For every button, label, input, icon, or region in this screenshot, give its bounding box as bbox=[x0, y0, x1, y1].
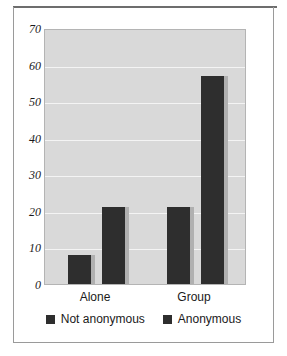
chart-legend: Not anonymous Anonymous bbox=[0, 312, 287, 326]
legend-label-anonymous: Anonymous bbox=[178, 312, 241, 326]
y-tick-label-10: 10 bbox=[1, 241, 41, 256]
y-tick-label-30: 30 bbox=[1, 168, 41, 183]
y-tick-label-20: 20 bbox=[1, 204, 41, 219]
bar-group-not-anonymous bbox=[167, 207, 190, 284]
figure-container: 70 60 50 40 30 20 10 0 Alone Group Not a… bbox=[0, 0, 287, 356]
bar-alone-anonymous bbox=[102, 207, 125, 284]
gridline-60 bbox=[45, 67, 245, 68]
y-tick-label-70: 70 bbox=[1, 22, 41, 37]
bar-group-anonymous bbox=[201, 76, 224, 284]
legend-swatch-icon-not-anonymous bbox=[46, 315, 55, 324]
y-tick-label-60: 60 bbox=[1, 58, 41, 73]
y-tick-label-40: 40 bbox=[1, 131, 41, 146]
y-tick-label-50: 50 bbox=[1, 95, 41, 110]
y-tick-label-0: 0 bbox=[1, 278, 41, 293]
plot-area bbox=[44, 29, 246, 285]
legend-label-not-anonymous: Not anonymous bbox=[61, 312, 145, 326]
bar-alone-not-anonymous bbox=[68, 255, 91, 284]
legend-swatch-icon-anonymous bbox=[163, 315, 172, 324]
x-tick-label-alone: Alone bbox=[80, 290, 111, 304]
legend-entry-not-anonymous: Not anonymous bbox=[46, 312, 145, 326]
legend-entry-anonymous: Anonymous bbox=[163, 312, 241, 326]
x-tick-label-group: Group bbox=[177, 290, 210, 304]
y-axis: 70 60 50 40 30 20 10 0 bbox=[0, 29, 41, 285]
